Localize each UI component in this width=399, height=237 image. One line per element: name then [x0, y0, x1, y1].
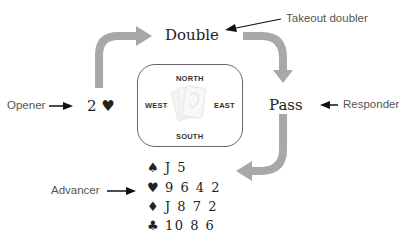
flow-arrow-responder-to-advancer [236, 114, 283, 181]
flow-arrow-doubler-to-responder [243, 36, 293, 83]
hand-row-diamonds: ♦J 8 7 2 [147, 199, 218, 214]
pointer-arrow-responder [320, 101, 338, 109]
bid-double: Double [165, 26, 219, 44]
heart-icon: ♥ [147, 180, 165, 195]
label-responder: Responder [343, 98, 399, 110]
bid-two-hearts: 2 ♥ [87, 97, 115, 115]
pointer-arrow-advancer [107, 187, 136, 195]
pointer-arrow-takeout-doubler [225, 19, 281, 32]
bridge-table-compass: NORTH WEST EAST SOUTH [137, 64, 243, 147]
label-opener: Opener [7, 99, 45, 111]
diamond-icon: ♦ [147, 199, 165, 214]
label-advancer: Advancer [51, 184, 100, 196]
label-takeout-doubler: Takeout doubler [286, 12, 368, 24]
spade-icon: ♠ [147, 160, 165, 175]
spades-cards: J 5 [165, 160, 187, 175]
pointer-arrow-opener [49, 102, 73, 110]
hearts-cards: 9 6 4 2 [165, 180, 221, 195]
diamonds-cards: J 8 7 2 [165, 199, 218, 214]
bid-pass: Pass [269, 96, 303, 114]
hand-row-hearts: ♥9 6 4 2 [147, 180, 221, 195]
hand-row-clubs: ♣10 8 6 [147, 218, 215, 233]
clubs-cards: 10 8 6 [165, 218, 215, 233]
club-icon: ♣ [147, 218, 165, 233]
hand-row-spades: ♠J 5 [147, 160, 187, 175]
playing-cards-icon [138, 65, 242, 146]
